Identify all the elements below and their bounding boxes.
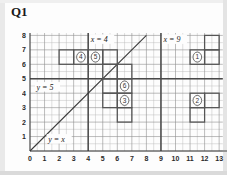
x-tick-9: 9 (159, 155, 163, 162)
svg-text:6: 6 (123, 82, 127, 89)
worksheet-page: Q1 01234567891011121312345678xy x = 4x =… (0, 0, 227, 175)
shape-label-2: 2 (193, 95, 202, 105)
x-tick-0: 0 (28, 155, 32, 162)
x-tick-6: 6 (115, 155, 119, 162)
svg-text:1: 1 (196, 53, 200, 60)
svg-text:2: 2 (196, 97, 200, 104)
coordinate-grid-chart: 01234567891011121312345678xy x = 4x = 9y… (22, 33, 217, 153)
x-tick-3: 3 (72, 155, 76, 162)
line-annotations: x = 4x = 9y = 5y = x (35, 34, 187, 143)
page-edge-left (0, 0, 5, 175)
y-tick-8: 8 (22, 33, 26, 39)
x-tick-10: 10 (172, 155, 180, 162)
x-tick-11: 11 (186, 155, 194, 162)
annotation-y-equals-x: y = x (47, 135, 65, 144)
annotation-y-equals-5: y = 5 (36, 83, 54, 92)
shape-label-3: 3 (120, 95, 129, 105)
page-title: Q1 (11, 4, 28, 20)
x-tick-5: 5 (101, 155, 105, 162)
y-tick-1: 1 (22, 133, 26, 140)
x-tick-12: 12 (201, 155, 209, 162)
x-tick-2: 2 (57, 155, 61, 162)
y-tick-7: 7 (22, 46, 26, 53)
annotation-x-equals-9: x = 9 (162, 35, 180, 44)
x-tick-8: 8 (144, 155, 148, 162)
page-edge-top (0, 0, 227, 3)
svg-text:4: 4 (79, 53, 83, 60)
svg-text:3: 3 (123, 97, 127, 104)
chart-svg: 01234567891011121312345678xy x = 4x = 9y… (22, 33, 227, 175)
svg-text:5: 5 (94, 53, 98, 60)
x-tick-1: 1 (43, 155, 47, 162)
y-tick-3: 3 (22, 104, 26, 111)
annotation-x-equals-4: x = 4 (90, 35, 108, 44)
shape-label-1: 1 (193, 52, 202, 62)
x-tick-4: 4 (86, 155, 90, 162)
y-tick-2: 2 (22, 119, 26, 126)
shape-label-6: 6 (120, 81, 129, 91)
x-tick-13: 13 (215, 155, 223, 162)
x-tick-7: 7 (130, 155, 134, 162)
shape-label-5: 5 (91, 52, 100, 62)
y-tick-6: 6 (22, 61, 26, 68)
y-tick-4: 4 (22, 90, 26, 97)
y-tick-5: 5 (22, 75, 26, 82)
shape-label-4: 4 (77, 52, 86, 62)
